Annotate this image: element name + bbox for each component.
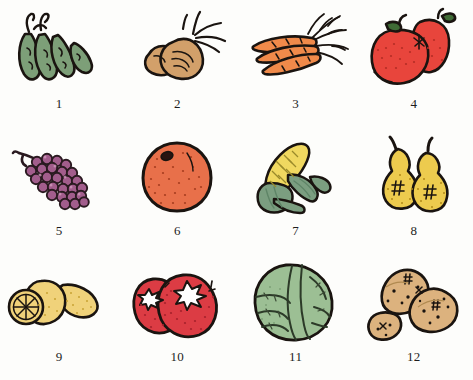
- pea-pods-icon: [3, 4, 115, 96]
- grid-cell-apples[interactable]: 4: [355, 0, 473, 127]
- pears-icon: [358, 131, 470, 223]
- grid-cell-peas[interactable]: 1: [0, 0, 118, 127]
- cabbage-icon: [240, 257, 352, 349]
- item-caption: 12: [407, 350, 421, 363]
- corn-cob-icon: [240, 131, 352, 223]
- grid-cell-beets[interactable]: 2: [118, 0, 236, 127]
- tomatoes-icon: [121, 257, 233, 349]
- item-caption: 7: [292, 224, 299, 237]
- item-grid: 1: [0, 0, 473, 380]
- illustration-sheet: 1: [0, 0, 473, 380]
- grid-cell-tomatoes[interactable]: 10: [118, 253, 236, 380]
- potatoes-icon: [358, 257, 470, 349]
- item-caption: 11: [289, 350, 302, 363]
- item-caption: 6: [174, 224, 181, 237]
- item-caption: 9: [56, 350, 63, 363]
- carrots-icon: [240, 4, 352, 96]
- grid-cell-orange[interactable]: 6: [118, 127, 236, 254]
- grid-cell-pears[interactable]: 8: [355, 127, 473, 254]
- item-caption: 2: [174, 97, 181, 110]
- item-caption: 1: [56, 97, 63, 110]
- beets-icon: [121, 4, 233, 96]
- grid-cell-grapes[interactable]: 5: [0, 127, 118, 254]
- grid-cell-cabbage[interactable]: 11: [237, 253, 355, 380]
- grapes-icon: [3, 131, 115, 223]
- item-caption: 4: [410, 97, 417, 110]
- grid-cell-corn[interactable]: 7: [237, 127, 355, 254]
- lemons-icon: [3, 257, 115, 349]
- apples-icon: [358, 4, 470, 96]
- item-caption: 8: [410, 224, 417, 237]
- item-caption: 5: [56, 224, 63, 237]
- item-caption: 10: [171, 350, 185, 363]
- item-caption: 3: [292, 97, 299, 110]
- grid-cell-carrots[interactable]: 3: [237, 0, 355, 127]
- grid-cell-potatoes[interactable]: 12: [355, 253, 473, 380]
- grid-cell-lemons[interactable]: 9: [0, 253, 118, 380]
- orange-icon: [121, 131, 233, 223]
